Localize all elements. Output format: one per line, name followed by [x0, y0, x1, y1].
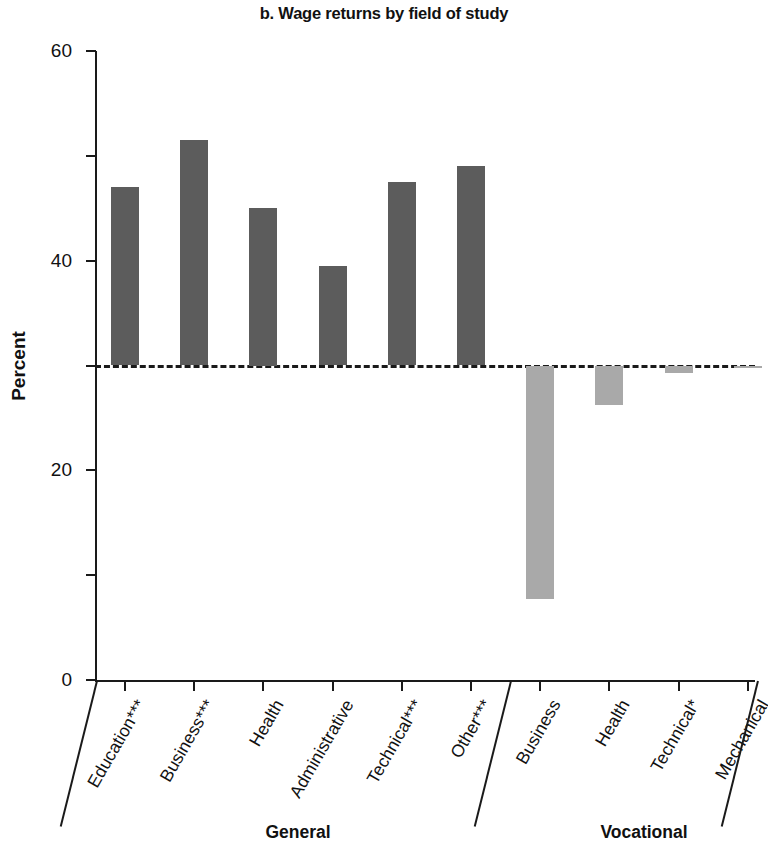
bar [734, 366, 762, 369]
x-tick [678, 680, 680, 691]
y-tick: 60 [86, 50, 96, 52]
x-category-label: Mechanical [713, 697, 768, 782]
x-tick [193, 680, 195, 691]
bar [111, 187, 139, 365]
y-tick: −40 [86, 574, 96, 576]
x-category-label: Health [247, 697, 287, 750]
chart-figure: b. Wage returns by field of study Percen… [0, 0, 768, 854]
bar [319, 266, 347, 366]
chart-title: b. Wage returns by field of study [0, 4, 768, 23]
bar [457, 166, 485, 365]
x-tick [124, 680, 126, 691]
bar [526, 366, 554, 599]
plot-area: 6040200−20−40−60 [95, 51, 755, 680]
group-label: Vocational [544, 822, 744, 843]
bar [595, 366, 623, 405]
y-axis-title-label: Percent [8, 331, 30, 401]
y-tick-label: 20 [51, 460, 72, 479]
x-category-label: Technical*** [364, 697, 426, 787]
x-category-label: Health [593, 697, 633, 750]
x-category-label: Education*** [85, 697, 149, 791]
x-category-label: Business [514, 697, 565, 767]
x-category-label: Technical* [648, 697, 703, 775]
group-divider-left [60, 681, 98, 827]
x-category-label: Other*** [448, 697, 495, 761]
y-tick: 20 [86, 260, 96, 262]
bar [388, 182, 416, 365]
bar [249, 208, 277, 365]
y-tick: 40 [86, 155, 96, 157]
x-tick [470, 680, 472, 691]
x-tick [262, 680, 264, 691]
x-category-label: Business*** [157, 697, 218, 785]
y-tick-label: 0 [61, 670, 72, 689]
x-category-label: Administrative [287, 697, 357, 801]
y-axis-title: Percent [6, 51, 32, 680]
group-label: General [198, 822, 398, 843]
x-tick [401, 680, 403, 691]
y-tick-label: 40 [51, 250, 72, 269]
y-tick-label: 60 [51, 41, 72, 60]
x-tick [332, 680, 334, 691]
bar [665, 366, 693, 374]
x-tick [539, 680, 541, 691]
x-tick [608, 680, 610, 691]
bar [180, 140, 208, 365]
x-tick [747, 680, 749, 691]
y-tick: −20 [86, 469, 96, 471]
